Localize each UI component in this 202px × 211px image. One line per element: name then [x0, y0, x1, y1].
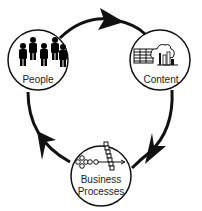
cycle-diagram: People Content: [0, 0, 202, 211]
node-business-processes: Business Processes: [71, 142, 131, 206]
arrow-people-to-content: [60, 8, 145, 38]
node-label-processes: Processes: [78, 186, 125, 197]
arrow-business-to-people: [28, 92, 70, 162]
node-label-people: People: [22, 74, 54, 85]
node-content: Content: [130, 30, 190, 90]
node-people: People: [8, 30, 68, 90]
node-label-content: Content: [143, 74, 178, 85]
node-label-business: Business: [81, 174, 122, 185]
arrow-content-to-business: [132, 90, 172, 168]
